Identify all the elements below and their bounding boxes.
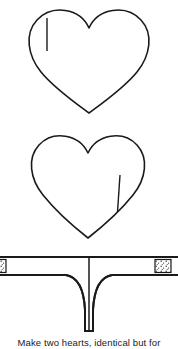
pattern-figure	[0, 0, 178, 349]
hatched-tab-right-icon	[155, 260, 171, 273]
heart-piece-upper	[29, 10, 149, 113]
figure-caption: Make two hearts, identical but for	[0, 337, 178, 348]
heart-piece-lower	[31, 136, 144, 238]
heart-outline-lower	[31, 136, 144, 238]
gusset-piece	[0, 257, 178, 331]
pattern-diagram-page: Make two hearts, identical but for	[0, 0, 178, 349]
hatched-tab-left-icon	[0, 260, 6, 273]
